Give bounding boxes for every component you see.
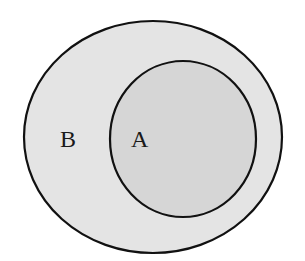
set-a-label: A bbox=[131, 126, 149, 152]
set-b-label: B bbox=[60, 126, 76, 152]
venn-diagram: B A bbox=[0, 0, 305, 261]
